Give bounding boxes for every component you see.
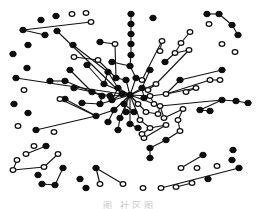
filled-node (147, 155, 153, 161)
filled-node (121, 101, 127, 107)
filled-node (97, 39, 103, 45)
filled-node (10, 51, 16, 57)
hollow-node (219, 42, 225, 47)
hollow-node (163, 123, 169, 128)
filled-node (71, 85, 77, 91)
filled-node (128, 11, 134, 17)
hollow-node (178, 41, 184, 46)
graph-edge (142, 41, 162, 80)
filled-node (127, 121, 133, 127)
hollow-node (189, 181, 195, 186)
hollow-node (139, 78, 145, 83)
graph-edge (160, 100, 222, 106)
hollow-node (232, 50, 238, 55)
filled-node (25, 42, 31, 48)
filled-node (197, 107, 203, 113)
hollow-node (206, 22, 212, 27)
hollow-node (151, 102, 157, 107)
hollow-node (10, 168, 16, 173)
filled-node (62, 78, 68, 84)
figure-caption: 图 社区图 (0, 199, 259, 209)
filled-node (219, 97, 225, 103)
hollow-node (69, 12, 75, 17)
hollow-node (157, 104, 163, 109)
filled-node (93, 165, 99, 171)
filled-node (117, 115, 123, 121)
filled-node (109, 97, 115, 103)
filled-node (35, 172, 41, 178)
hollow-node (159, 39, 165, 44)
hollow-node (55, 152, 61, 157)
filled-node (131, 109, 137, 115)
filled-node (109, 59, 115, 65)
hollow-node (21, 88, 27, 93)
filled-node (60, 165, 66, 171)
hollow-node (163, 92, 169, 97)
hollow-node (95, 58, 101, 63)
filled-node (38, 17, 44, 23)
filled-node (204, 11, 210, 17)
filled-node (67, 67, 73, 73)
filled-node (123, 109, 129, 115)
filled-node (93, 113, 99, 119)
hollow-node (97, 182, 103, 187)
hollow-node (178, 166, 184, 171)
filled-node (127, 63, 133, 69)
hollow-node (187, 30, 193, 35)
hollow-node (23, 152, 29, 157)
hollow-node (137, 118, 143, 123)
hollow-node (140, 186, 146, 191)
filled-node (115, 85, 121, 91)
hollow-node (194, 166, 200, 171)
hollow-node (186, 48, 192, 53)
filled-node (200, 152, 206, 158)
filled-node (111, 107, 117, 113)
hollow-node (147, 94, 153, 99)
filled-node (205, 176, 211, 182)
filled-node (53, 13, 59, 19)
graph-edge (36, 116, 96, 130)
filled-node (128, 31, 134, 37)
hollow-node (139, 132, 145, 137)
filled-node (79, 100, 85, 106)
filled-node (133, 75, 139, 81)
hollow-node (217, 78, 223, 83)
network-graph (0, 0, 259, 209)
filled-node (128, 41, 134, 47)
filled-node (13, 75, 19, 81)
hollow-node (83, 11, 89, 16)
filled-node (147, 67, 153, 73)
filled-node (43, 143, 49, 149)
filled-node (25, 110, 31, 116)
hollow-node (172, 51, 178, 56)
filled-node (52, 182, 58, 188)
hollow-node (177, 129, 183, 134)
hollow-node (161, 116, 167, 121)
filled-node (123, 77, 129, 83)
hollow-node (57, 97, 63, 102)
filled-node (105, 69, 111, 75)
filled-node (135, 125, 141, 131)
filled-node (99, 93, 105, 99)
hollow-node (51, 130, 57, 135)
hollow-node (207, 78, 213, 83)
graph-edges (13, 14, 248, 188)
hollow-node (173, 185, 179, 190)
hollow-node (41, 165, 47, 170)
filled-node (70, 42, 76, 48)
filled-node (150, 15, 156, 21)
filled-node (119, 91, 125, 97)
hollow-node (155, 112, 161, 117)
filled-node (128, 52, 134, 58)
graph-edge (13, 167, 44, 170)
filled-node (54, 28, 60, 34)
filled-node (11, 101, 17, 107)
filled-node (229, 22, 235, 28)
filled-node (236, 165, 242, 171)
filled-node (33, 127, 39, 133)
graph-edge (180, 70, 222, 80)
filled-node (39, 181, 45, 187)
graph-edge (130, 95, 140, 120)
hollow-node (31, 144, 37, 149)
hollow-node (175, 118, 181, 123)
